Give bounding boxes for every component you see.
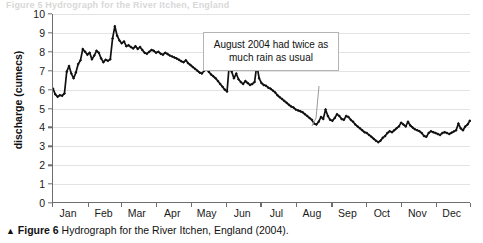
x-tick-label: Jan xyxy=(60,207,77,219)
x-tick-mark xyxy=(191,203,192,207)
x-tick-mark xyxy=(436,203,437,207)
y-tick-label: 2 xyxy=(23,159,45,171)
x-tick-label: Dec xyxy=(442,207,461,219)
x-tick-mark xyxy=(296,203,297,207)
y-tick-label: 1 xyxy=(23,178,45,190)
y-tick-label: 10 xyxy=(23,8,45,20)
x-tick-mark xyxy=(260,203,261,207)
figure-root: Figure 5 Hydrograph for the River Itchen… xyxy=(0,0,483,243)
x-axis-ticks: JanFebMarAprMayJunJulAugSepOctNovDec xyxy=(52,205,470,221)
y-tick-label: 5 xyxy=(23,103,45,115)
x-tick-label: Jul xyxy=(270,207,283,219)
caption-figure-number: Figure 6 xyxy=(18,224,59,236)
x-tick-mark xyxy=(226,203,227,207)
caption-body: Hydrograph for the River Itchen, England… xyxy=(62,224,289,236)
y-tick-label: 6 xyxy=(23,84,45,96)
x-tick-label: Aug xyxy=(303,207,322,219)
x-tick-label: Apr xyxy=(164,207,180,219)
x-tick-mark xyxy=(401,203,402,207)
caption-triangle-icon: ▲ xyxy=(6,226,15,236)
x-tick-mark xyxy=(366,203,367,207)
x-tick-label: Jun xyxy=(234,207,251,219)
x-tick-label: Sep xyxy=(338,207,357,219)
x-tick-label: Nov xyxy=(408,207,427,219)
x-tick-label: Feb xyxy=(94,207,112,219)
y-tick-label: 4 xyxy=(23,121,45,133)
x-tick-label: Oct xyxy=(374,207,390,219)
x-tick-mark xyxy=(88,203,89,207)
y-tick-label: 0 xyxy=(23,197,45,209)
y-tick-label: 9 xyxy=(23,27,45,39)
hydrograph-chart: discharge (cumecs) 012345678910 August 2… xyxy=(0,6,483,218)
annotation-callout: August 2004 had twice as much rain as us… xyxy=(203,32,339,71)
annotation-line-2: much rain as usual xyxy=(210,51,332,64)
x-tick-mark xyxy=(156,203,157,207)
x-tick-label: May xyxy=(197,207,217,219)
x-tick-mark xyxy=(121,203,122,207)
x-tick-mark xyxy=(331,203,332,207)
x-tick-mark xyxy=(52,203,53,207)
x-tick-mark xyxy=(470,203,471,207)
annotation-line-1: August 2004 had twice as xyxy=(210,38,332,51)
y-tick-label: 8 xyxy=(23,46,45,58)
y-tick-label: 7 xyxy=(23,65,45,77)
figure-caption: ▲ Figure 6 Hydrograph for the River Itch… xyxy=(6,223,476,238)
x-tick-label: Mar xyxy=(128,207,146,219)
y-tick-label: 3 xyxy=(23,140,45,152)
y-axis-ticks: 012345678910 xyxy=(0,14,52,203)
